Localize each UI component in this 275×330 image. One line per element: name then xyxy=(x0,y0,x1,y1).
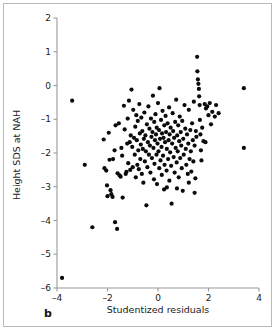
data-point xyxy=(152,177,156,181)
data-point xyxy=(217,111,221,115)
data-point xyxy=(160,131,164,135)
data-point xyxy=(214,103,218,107)
data-point xyxy=(169,164,173,168)
data-point xyxy=(176,123,180,127)
data-point xyxy=(145,122,149,126)
data-point xyxy=(178,114,182,118)
data-point xyxy=(187,108,191,112)
y-tick-label: 2 xyxy=(45,13,51,23)
data-point xyxy=(192,100,196,104)
data-point xyxy=(133,153,137,157)
data-point xyxy=(153,138,157,142)
data-point xyxy=(197,87,201,91)
data-point xyxy=(131,165,135,169)
data-point xyxy=(191,138,195,142)
data-point xyxy=(176,149,180,153)
x-tick-label: –4 xyxy=(52,293,63,303)
data-point xyxy=(197,94,201,98)
data-point xyxy=(147,153,151,157)
data-point xyxy=(167,138,171,142)
data-point xyxy=(242,86,246,90)
y-tick-label: –5 xyxy=(41,249,51,259)
data-points-layer xyxy=(60,55,246,280)
data-point xyxy=(206,113,210,117)
data-point xyxy=(159,118,163,122)
data-point xyxy=(182,103,186,107)
data-point xyxy=(196,82,200,86)
data-point xyxy=(150,130,154,134)
data-point xyxy=(188,128,192,132)
data-point xyxy=(159,145,163,149)
data-point xyxy=(167,179,171,183)
data-point xyxy=(198,132,202,136)
data-point xyxy=(162,163,166,167)
data-point xyxy=(135,163,139,167)
data-point xyxy=(83,163,87,167)
data-point xyxy=(122,104,126,108)
data-point xyxy=(153,112,157,116)
data-point xyxy=(152,120,156,124)
data-point xyxy=(196,77,200,81)
data-point xyxy=(168,150,172,154)
data-point xyxy=(193,191,197,195)
data-point xyxy=(128,140,132,144)
data-point xyxy=(208,101,212,105)
data-point xyxy=(154,132,158,136)
x-tick-label: 0 xyxy=(155,293,161,303)
data-point xyxy=(143,133,147,137)
data-point xyxy=(181,189,185,193)
data-point xyxy=(200,126,204,130)
y-tick-label: –1 xyxy=(41,114,51,124)
data-point xyxy=(113,220,117,224)
data-point xyxy=(193,176,197,180)
data-point xyxy=(157,128,161,132)
data-point xyxy=(144,149,148,153)
data-point xyxy=(194,129,198,133)
data-point xyxy=(147,127,151,131)
y-tick-label: 0 xyxy=(45,81,51,91)
data-point xyxy=(160,109,164,113)
data-point xyxy=(107,158,111,162)
data-point xyxy=(209,122,213,126)
data-point xyxy=(242,146,246,150)
data-point xyxy=(111,157,115,161)
data-point xyxy=(175,186,179,190)
y-tick-label: –4 xyxy=(41,216,52,226)
data-point xyxy=(191,159,195,163)
x-axis-tick-labels: –4–2024 xyxy=(52,293,262,303)
data-point xyxy=(123,127,127,131)
data-point xyxy=(148,143,152,147)
data-point xyxy=(104,168,108,172)
data-point xyxy=(105,183,109,187)
data-point xyxy=(195,55,199,59)
data-point xyxy=(143,159,147,163)
data-point xyxy=(189,149,193,153)
data-point xyxy=(155,182,159,186)
y-axis-title: Height SDS at NAH xyxy=(11,110,22,200)
data-point xyxy=(168,132,172,136)
data-point xyxy=(134,113,138,117)
data-point xyxy=(213,114,217,118)
data-point xyxy=(60,276,64,280)
data-point xyxy=(136,119,140,123)
data-point xyxy=(140,172,144,176)
data-point xyxy=(179,130,183,134)
data-point xyxy=(178,156,182,160)
data-point xyxy=(149,116,153,120)
data-point xyxy=(133,125,137,129)
data-point xyxy=(175,133,179,137)
data-point xyxy=(130,145,134,149)
data-point xyxy=(180,119,184,123)
data-point xyxy=(139,142,143,146)
y-tick-label: –3 xyxy=(41,182,51,192)
data-point xyxy=(124,170,128,174)
x-tick-label: 4 xyxy=(256,293,262,303)
data-point xyxy=(129,87,133,91)
data-point xyxy=(180,166,184,170)
data-point xyxy=(102,137,106,141)
data-point xyxy=(171,111,175,115)
data-point xyxy=(184,147,188,151)
data-point xyxy=(110,195,114,199)
data-point xyxy=(151,146,155,150)
data-point xyxy=(120,154,124,158)
